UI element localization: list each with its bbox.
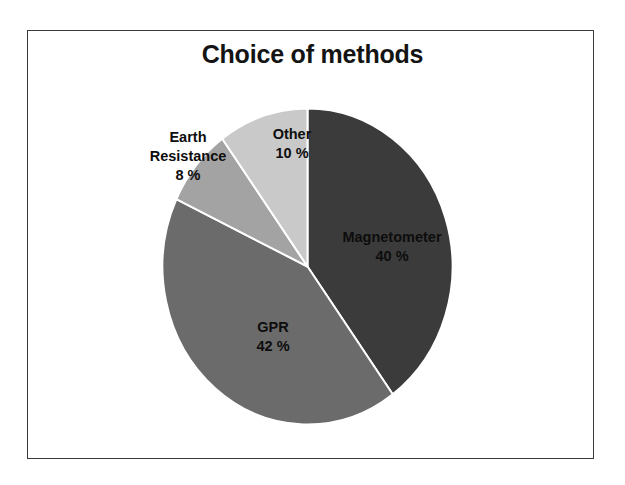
chart-screenshot: Choice of methods Magnetometer 40 % GPR … — [0, 0, 625, 485]
pie-chart-svg — [0, 0, 625, 485]
pie-slice-group — [163, 109, 453, 425]
pie-chart: Magnetometer 40 % GPR 42 % Earth Resista… — [0, 0, 625, 485]
